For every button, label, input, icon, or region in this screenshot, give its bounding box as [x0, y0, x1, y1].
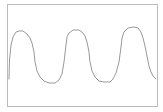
chart-canvas	[0, 0, 163, 112]
waveform-line	[9, 27, 156, 83]
plot-frame	[8, 5, 158, 107]
waveform-chart	[0, 0, 163, 112]
